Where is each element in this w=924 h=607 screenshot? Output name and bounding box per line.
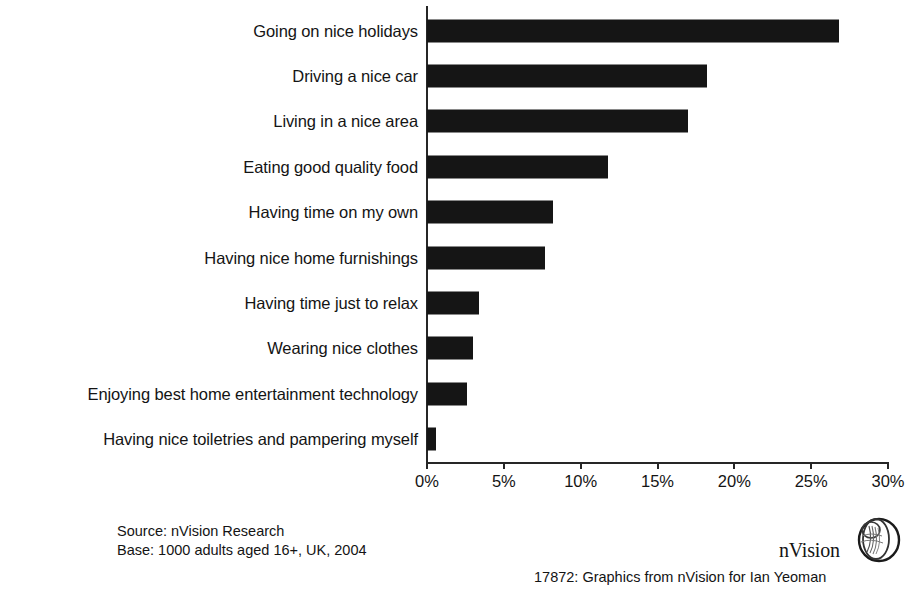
horizontal-bar-chart: Going on nice holidaysDriving a nice car… [0, 0, 924, 607]
nvision-logo: nVision [779, 514, 901, 564]
bar-row: Going on nice holidays [427, 8, 888, 53]
bar-row: Having nice home furnishings [427, 235, 888, 280]
nvision-globe-icon [849, 514, 901, 564]
bar [427, 382, 467, 405]
x-tick [580, 462, 582, 469]
x-tick [657, 462, 659, 469]
x-tick-label: 30% [871, 472, 904, 491]
x-axis: 0%5%10%15%20%25%30% [427, 462, 888, 463]
x-tick [503, 462, 505, 469]
category-label: Enjoying best home entertainment technol… [88, 384, 419, 403]
category-label: Driving a nice car [292, 67, 418, 86]
credit-line: 17872: Graphics from nVision for Ian Yeo… [534, 569, 826, 585]
bar [427, 65, 707, 88]
x-tick-label: 15% [641, 472, 674, 491]
bar [427, 337, 473, 360]
x-tick [733, 462, 735, 469]
bar-row: Eating good quality food [427, 144, 888, 189]
category-label: Eating good quality food [243, 157, 418, 176]
bar-row: Wearing nice clothes [427, 326, 888, 371]
category-label: Having nice home furnishings [204, 248, 418, 267]
bar-row: Having time just to relax [427, 280, 888, 325]
category-label: Going on nice holidays [253, 21, 418, 40]
category-label: Having nice toiletries and pampering mys… [103, 430, 418, 449]
bar-row: Having time on my own [427, 190, 888, 235]
bar-row: Enjoying best home entertainment technol… [427, 371, 888, 416]
x-tick-label: 20% [718, 472, 751, 491]
base-line: Base: 1000 adults aged 16+, UK, 2004 [117, 541, 367, 560]
source-note: Source: nVision Research Base: 1000 adul… [117, 522, 367, 560]
x-tick-label: 10% [564, 472, 597, 491]
bar [427, 110, 688, 133]
bar-row: Living in a nice area [427, 99, 888, 144]
x-tick-label: 0% [415, 472, 439, 491]
bar-row: Having nice toiletries and pampering mys… [427, 417, 888, 462]
bar [427, 246, 545, 269]
source-line: Source: nVision Research [117, 522, 367, 541]
bar [427, 155, 608, 178]
bar [427, 19, 839, 42]
plot-area: Going on nice holidaysDriving a nice car… [427, 8, 888, 462]
x-tick [810, 462, 812, 469]
category-label: Wearing nice clothes [267, 339, 418, 358]
x-tick-label: 25% [795, 472, 828, 491]
category-label: Having time on my own [249, 203, 418, 222]
category-label: Living in a nice area [273, 112, 418, 131]
nvision-wordmark: nVision [779, 539, 840, 562]
category-label: Having time just to relax [244, 294, 418, 313]
bar [427, 201, 553, 224]
bar-row: Driving a nice car [427, 53, 888, 98]
x-tick [426, 462, 428, 469]
bar [427, 292, 479, 315]
x-tick [887, 462, 889, 469]
bar [427, 428, 436, 451]
x-tick-label: 5% [492, 472, 516, 491]
